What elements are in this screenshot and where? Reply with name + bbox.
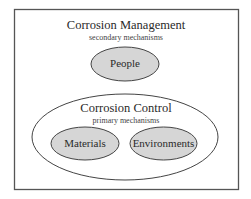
corrosion-management-title: Corrosion Management bbox=[67, 18, 185, 33]
corrosion-management-subtitle: secondary mechanisms bbox=[89, 33, 163, 42]
corrosion-control-title: Corrosion Control bbox=[80, 101, 171, 116]
environments-label: Environments bbox=[133, 137, 195, 149]
corrosion-control-subtitle: primary mechanisms bbox=[93, 116, 160, 125]
materials-label: Materials bbox=[64, 137, 106, 149]
people-label: People bbox=[110, 57, 140, 69]
